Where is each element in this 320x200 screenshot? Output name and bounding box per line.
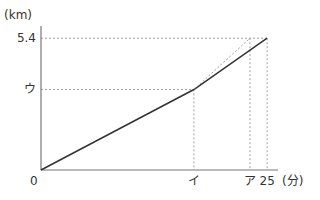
x-tick-label: イ bbox=[188, 174, 200, 188]
y-tick-label: ウ bbox=[24, 82, 36, 96]
y-tick-label: 5.4 bbox=[17, 31, 36, 45]
x-tick-label: 25 bbox=[260, 174, 275, 188]
guide-lines bbox=[41, 38, 267, 170]
origin-label: 0 bbox=[30, 174, 38, 188]
y-axis-label: (km) bbox=[4, 8, 32, 22]
series-line-actual bbox=[41, 38, 267, 170]
y-tick-labels: ウ5.4 bbox=[17, 31, 36, 96]
x-axis-label: (分) bbox=[282, 174, 303, 188]
series-line-extension bbox=[194, 38, 250, 89]
chart: (km) (分) 0 イア25 ウ5.4 bbox=[0, 0, 320, 200]
x-tick-labels: イア25 bbox=[188, 174, 275, 188]
series-group bbox=[41, 38, 267, 170]
x-tick-label: ア bbox=[244, 174, 256, 188]
